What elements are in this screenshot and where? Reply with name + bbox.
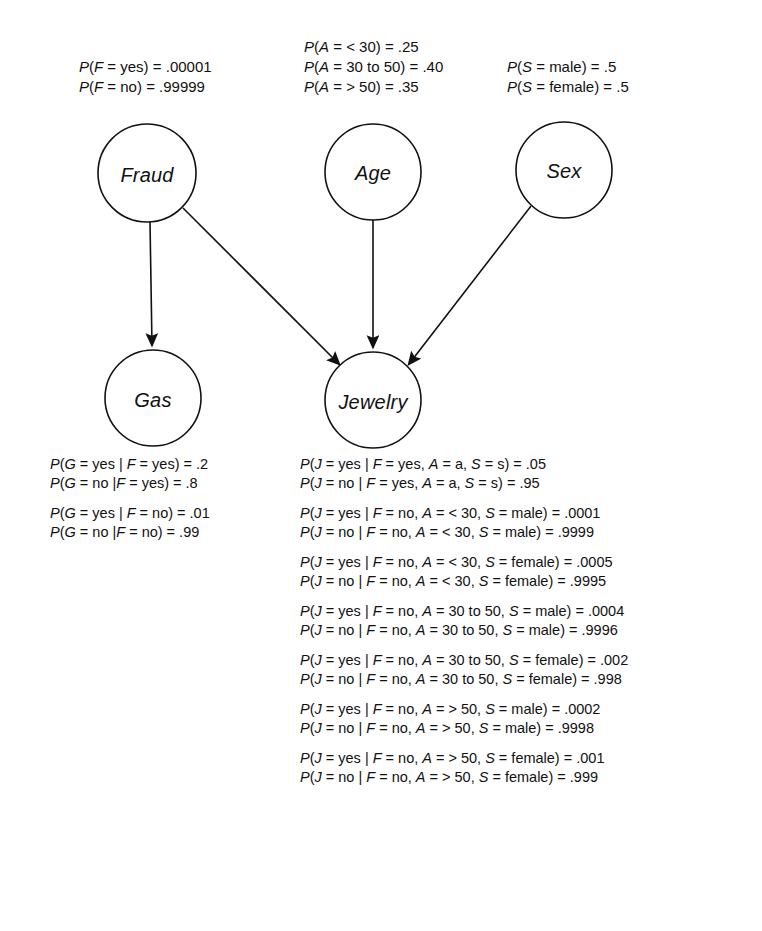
bayesian-network-figure: Fraud Age Sex Gas Jewelry P(F = yes) = .… bbox=[0, 0, 762, 931]
jewelry-cpt-group: P(J = yes | F = no, A = > 50, S = female… bbox=[300, 749, 628, 787]
age-prior-row: P(A = 30 to 50) = .40 bbox=[304, 57, 443, 77]
jewelry-cpt-row: P(J = no | F = no, A = < 30, S = female)… bbox=[300, 572, 628, 591]
jewelry-cpt-row: P(J = yes | F = no, A = 30 to 50, S = fe… bbox=[300, 651, 628, 670]
edge-fraud-to-gas bbox=[150, 222, 152, 345]
sex-prior-row: P(S = female) = .5 bbox=[507, 77, 629, 97]
node-label-fraud: Fraud bbox=[120, 164, 173, 187]
jewelry-cpt-row: P(J = yes | F = no, A = > 50, S = female… bbox=[300, 749, 628, 768]
jewelry-cpt-row: P(J = no | F = yes, A = a, S = s) = .95 bbox=[300, 474, 628, 493]
jewelry-cpt-group: P(J = yes | F = no, A = > 50, S = male) … bbox=[300, 700, 628, 738]
node-label-age: Age bbox=[355, 162, 391, 185]
jewelry-cpt-group: P(J = yes | F = no, A = < 30, S = male) … bbox=[300, 504, 628, 542]
jewelry-cpt-row: P(J = no | F = no, A = 30 to 50, S = mal… bbox=[300, 621, 628, 640]
jewelry-cpt-row: P(J = yes | F = no, A = 30 to 50, S = ma… bbox=[300, 602, 628, 621]
sex-prior-table: P(S = male) = .5 P(S = female) = .5 bbox=[507, 57, 629, 97]
fraud-prior-row: P(F = no) = .99999 bbox=[79, 77, 212, 97]
jewelry-cpt-row: P(J = no | F = no, A = 30 to 50, S = fem… bbox=[300, 670, 628, 689]
edge-sex-to-jewelry bbox=[409, 206, 531, 364]
gas-cpt-table: P(G = yes | F = yes) = .2 P(G = no |F = … bbox=[50, 455, 210, 542]
jewelry-cpt-row: P(J = no | F = no, A = < 30, S = male) =… bbox=[300, 523, 628, 542]
jewelry-cpt-row: P(J = yes | F = yes, A = a, S = s) = .05 bbox=[300, 455, 628, 474]
sex-prior-row: P(S = male) = .5 bbox=[507, 57, 629, 77]
jewelry-cpt-group: P(J = yes | F = no, A = 30 to 50, S = ma… bbox=[300, 602, 628, 640]
gas-cpt-row: P(G = no |F = yes) = .8 bbox=[50, 474, 210, 493]
gas-cpt-group: P(G = yes | F = yes) = .2 P(G = no |F = … bbox=[50, 455, 210, 493]
jewelry-cpt-row: P(J = no | F = no, A = > 50, S = male) =… bbox=[300, 719, 628, 738]
age-prior-table: P(A = < 30) = .25 P(A = 30 to 50) = .40 … bbox=[304, 37, 443, 97]
node-label-gas: Gas bbox=[134, 389, 171, 412]
jewelry-cpt-row: P(J = no | F = no, A = > 50, S = female)… bbox=[300, 768, 628, 787]
jewelry-cpt-group: P(J = yes | F = no, A = 30 to 50, S = fe… bbox=[300, 651, 628, 689]
jewelry-cpt-group: P(J = yes | F = yes, A = a, S = s) = .05… bbox=[300, 455, 628, 493]
jewelry-cpt-table: P(J = yes | F = yes, A = a, S = s) = .05… bbox=[300, 455, 628, 787]
age-prior-row: P(A = < 30) = .25 bbox=[304, 37, 443, 57]
node-label-sex: Sex bbox=[546, 160, 581, 183]
jewelry-cpt-row: P(J = yes | F = no, A = < 30, S = female… bbox=[300, 553, 628, 572]
edge-fraud-to-jewelry bbox=[183, 208, 339, 364]
jewelry-cpt-row: P(J = yes | F = no, A = < 30, S = male) … bbox=[300, 504, 628, 523]
gas-cpt-row: P(G = no |F = no) = .99 bbox=[50, 523, 210, 542]
jewelry-cpt-group: P(J = yes | F = no, A = < 30, S = female… bbox=[300, 553, 628, 591]
node-label-jewelry: Jewelry bbox=[338, 391, 407, 414]
gas-cpt-group: P(G = yes | F = no) = .01 P(G = no |F = … bbox=[50, 504, 210, 542]
fraud-prior-table: P(F = yes) = .00001 P(F = no) = .99999 bbox=[79, 57, 212, 97]
gas-cpt-row: P(G = yes | F = yes) = .2 bbox=[50, 455, 210, 474]
age-prior-row: P(A = > 50) = .35 bbox=[304, 77, 443, 97]
gas-cpt-row: P(G = yes | F = no) = .01 bbox=[50, 504, 210, 523]
jewelry-cpt-row: P(J = yes | F = no, A = > 50, S = male) … bbox=[300, 700, 628, 719]
fraud-prior-row: P(F = yes) = .00001 bbox=[79, 57, 212, 77]
